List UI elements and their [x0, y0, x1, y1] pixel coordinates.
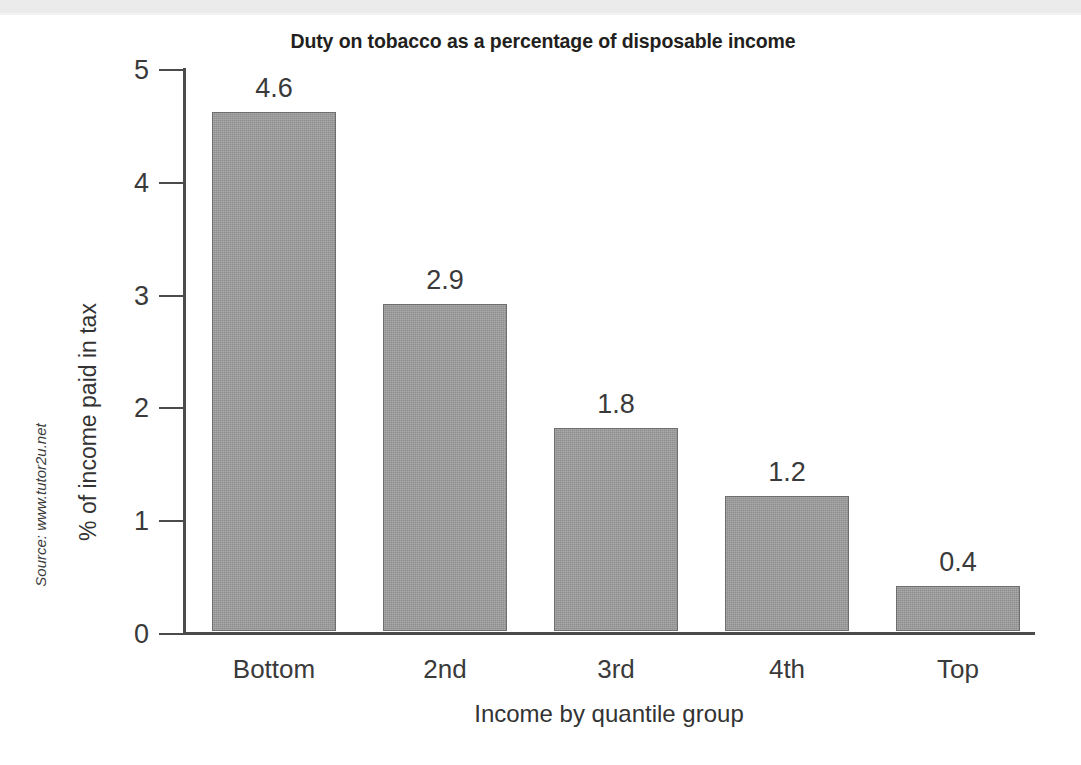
x-axis-category-label: 3rd: [532, 656, 700, 682]
x-axis-line: [183, 632, 1035, 635]
x-axis-category-label: Top: [874, 656, 1042, 682]
bar: [725, 496, 849, 631]
y-axis-tick: [159, 295, 183, 297]
y-axis-tick: [159, 520, 183, 522]
bar-value-label: 0.4: [896, 549, 1020, 576]
y-axis-tick: [159, 633, 183, 635]
x-axis-title: Income by quantile group: [183, 700, 1035, 728]
y-axis-tick-label: 3: [103, 282, 149, 309]
bar: [896, 586, 1020, 631]
bar-value-label: 1.8: [554, 391, 678, 418]
y-axis-tick: [159, 182, 183, 184]
y-axis-tick-label: 4: [103, 169, 149, 196]
bar: [212, 112, 336, 631]
bar: [554, 428, 678, 631]
bar: [383, 304, 507, 631]
x-axis-category-label: 4th: [703, 656, 871, 682]
y-axis-tick: [159, 407, 183, 409]
bar-value-label: 2.9: [383, 267, 507, 294]
bar-value-label: 4.6: [212, 75, 336, 102]
bar-value-label: 1.2: [725, 459, 849, 486]
y-axis-tick-label: 5: [103, 57, 149, 84]
y-axis-tick-label: 2: [103, 395, 149, 422]
x-axis-category-label: 2nd: [361, 656, 529, 682]
x-axis-category-label: Bottom: [190, 656, 358, 682]
y-axis-tick: [159, 69, 183, 71]
page-top-scan-strip: [0, 0, 1081, 13]
chart-title: Duty on tobacco as a percentage of dispo…: [183, 30, 903, 53]
y-axis-tick-label: 1: [103, 508, 149, 535]
y-axis-line: [183, 68, 186, 635]
y-axis-title: % of income paid in tax: [75, 303, 102, 541]
page-top-scan-strip-edge: [0, 13, 1081, 15]
chart-page: Duty on tobacco as a percentage of dispo…: [0, 0, 1081, 765]
plot-area: 012345 4.62.91.81.20.4 Bottom2nd3rd4thTo…: [183, 68, 1035, 634]
y-axis-tick-label: 0: [103, 621, 149, 648]
source-note: Source: www.tutor2u.net: [32, 423, 49, 586]
